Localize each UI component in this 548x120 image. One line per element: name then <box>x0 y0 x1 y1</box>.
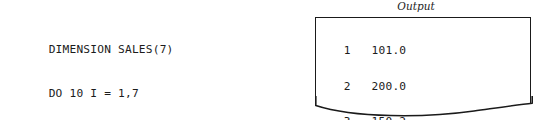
printout-sheet: 1 101.0 2 200.0 3 150.2 4 300.0 5 400.8 … <box>315 17 531 103</box>
code-line: DO 10 I = 1,7 <box>14 87 264 102</box>
output-row: 1 101.0 <box>316 45 532 57</box>
fortran-code-listing: DIMENSION SALES(7) DO 10 I = 1,7 15 WRIT… <box>14 14 264 120</box>
output-caption: Output <box>300 0 532 12</box>
output-panel: Output 1 101.0 2 200.0 3 150.2 4 300.0 5… <box>300 0 548 120</box>
code-line: DIMENSION SALES(7) <box>14 43 264 58</box>
figure-container: DIMENSION SALES(7) DO 10 I = 1,7 15 WRIT… <box>0 0 548 120</box>
output-row: 2 200.0 <box>316 81 532 93</box>
torn-paper-edge-icon <box>314 96 534 118</box>
